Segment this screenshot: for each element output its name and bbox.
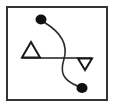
- diagram-canvas: [0, 0, 115, 108]
- figure-container: [0, 0, 115, 108]
- upper-dot-marker: [36, 15, 47, 25]
- lower-dot-marker: [77, 83, 88, 93]
- outer-frame: [7, 7, 107, 100]
